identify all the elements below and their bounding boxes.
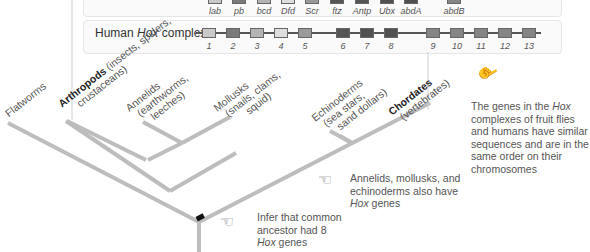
pointing-hand-icon: ☞ xyxy=(318,170,332,189)
note-infer-ancestor: Infer that common ancestor had 8 Hox gen… xyxy=(257,211,342,249)
note-similar-genes: The genes in the Hox complexes of fruit … xyxy=(471,100,589,175)
note-also-have-hox: Annelids, mollusks, and echinoderms also… xyxy=(350,172,460,210)
pointing-hand-icon: ☞ xyxy=(220,212,234,231)
